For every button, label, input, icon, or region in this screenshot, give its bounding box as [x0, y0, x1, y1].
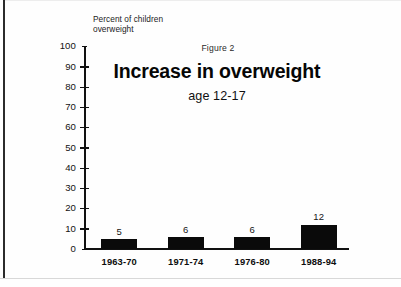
figure-page: Percent of children overweight Figure 2 …: [0, 0, 401, 287]
bar-1988-94: [301, 225, 337, 249]
y-tick-label-30: 30: [50, 182, 76, 193]
bar-value-1963-70: 5: [94, 226, 144, 237]
bar-1971-74: [168, 237, 204, 249]
category-label-1971-74: 1971-74: [151, 256, 221, 267]
y-tick-label-60: 60: [50, 121, 76, 132]
bar-value-1976-80: 6: [227, 224, 277, 235]
y-tick-70: [80, 107, 89, 108]
y-tick-60: [80, 127, 89, 128]
y-tick-label-50: 50: [50, 142, 76, 153]
plot-area: 1009080706050403020100 56612 1963-701971…: [0, 0, 401, 287]
y-tick-50: [80, 147, 89, 148]
bar-value-1971-74: 6: [161, 224, 211, 235]
bar-value-1988-94: 12: [294, 211, 344, 222]
y-tick-label-20: 20: [50, 202, 76, 213]
y-tick-20: [80, 208, 89, 209]
y-tick-0: [82, 249, 87, 250]
y-tick-90: [80, 66, 89, 67]
category-label-1976-80: 1976-80: [217, 256, 287, 267]
y-tick-label-10: 10: [50, 223, 76, 234]
y-tick-label-40: 40: [50, 162, 76, 173]
category-label-1988-94: 1988-94: [284, 256, 354, 267]
y-tick-label-80: 80: [50, 81, 76, 92]
y-tick-30: [80, 188, 89, 189]
y-tick-100: [82, 46, 87, 47]
y-tick-label-70: 70: [50, 101, 76, 112]
y-tick-10: [80, 228, 89, 229]
y-tick-40: [80, 168, 89, 169]
bar-1976-80: [234, 237, 270, 249]
y-tick-label-0: 0: [50, 243, 76, 254]
bar-1963-70: [101, 239, 137, 249]
category-label-1963-70: 1963-70: [84, 256, 154, 267]
y-tick-80: [80, 87, 89, 88]
y-tick-label-90: 90: [50, 61, 76, 72]
y-tick-label-100: 100: [50, 40, 76, 51]
